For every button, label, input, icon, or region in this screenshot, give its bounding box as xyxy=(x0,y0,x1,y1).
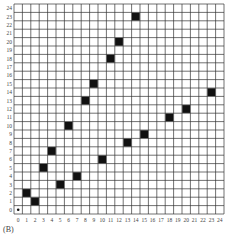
y-tick-label: 19 xyxy=(7,47,13,53)
y-tick-label: 18 xyxy=(7,56,13,62)
y-tick-label: 3 xyxy=(9,182,12,188)
y-tick-label: 20 xyxy=(7,39,13,45)
x-tick-label: 7 xyxy=(76,217,79,223)
y-tick-label: 11 xyxy=(7,114,13,120)
data-point-square xyxy=(56,181,64,189)
y-tick-label: 17 xyxy=(7,64,13,70)
x-tick-label: 10 xyxy=(99,217,105,223)
x-tick-label: 9 xyxy=(92,217,95,223)
x-tick-label: 15 xyxy=(141,217,147,223)
x-tick-label: 12 xyxy=(116,217,122,223)
y-tick-label: 16 xyxy=(7,72,13,78)
data-markers xyxy=(17,13,215,211)
y-tick-label: 24 xyxy=(7,5,13,11)
data-point-square xyxy=(140,130,148,138)
x-tick-label: 3 xyxy=(42,217,45,223)
x-tick-label: 14 xyxy=(133,217,139,223)
y-tick-label: 0 xyxy=(9,207,12,213)
x-tick-label: 21 xyxy=(192,217,198,223)
x-tick-label: 0 xyxy=(17,217,20,223)
x-tick-label: 20 xyxy=(183,217,189,223)
x-tick-label: 16 xyxy=(150,217,156,223)
x-tick-label: 23 xyxy=(209,217,215,223)
y-tick-label: 12 xyxy=(7,106,13,112)
data-point-square xyxy=(23,189,31,197)
x-tick-label: 18 xyxy=(167,217,173,223)
y-tick-label: 1 xyxy=(9,198,12,204)
x-tick-label: 17 xyxy=(158,217,164,223)
data-point-square xyxy=(98,156,106,164)
data-point-square xyxy=(182,105,190,113)
data-point-square xyxy=(132,13,140,21)
y-tick-label: 23 xyxy=(7,14,13,20)
data-point-square xyxy=(124,139,132,147)
y-tick-label: 2 xyxy=(9,190,12,196)
x-axis-ticks: 0123456789101112131415161718192021222324 xyxy=(17,217,223,223)
x-tick-label: 2 xyxy=(34,217,37,223)
y-tick-label: 9 xyxy=(9,131,12,137)
lattice-chart: 0123456789101112131415161718192021222324… xyxy=(0,0,228,235)
y-tick-label: 22 xyxy=(7,22,13,28)
x-tick-label: 1 xyxy=(25,217,28,223)
grid-lines xyxy=(14,4,224,214)
data-point-square xyxy=(31,198,39,206)
y-tick-label: 13 xyxy=(7,98,13,104)
data-point-square xyxy=(48,147,56,155)
x-tick-label: 6 xyxy=(67,217,70,223)
x-tick-label: 8 xyxy=(84,217,87,223)
data-point-square xyxy=(208,88,216,96)
y-tick-label: 14 xyxy=(7,89,13,95)
x-tick-label: 13 xyxy=(125,217,131,223)
x-tick-label: 11 xyxy=(108,217,114,223)
y-tick-label: 8 xyxy=(9,140,12,146)
origin-dot xyxy=(17,209,20,212)
y-tick-label: 7 xyxy=(9,148,12,154)
y-tick-label: 4 xyxy=(9,173,12,179)
x-tick-label: 5 xyxy=(59,217,62,223)
y-axis-ticks: 0123456789101112131415161718192021222324 xyxy=(7,5,13,213)
y-tick-label: 5 xyxy=(9,165,12,171)
data-point-square xyxy=(90,80,98,88)
data-point-square xyxy=(73,172,81,180)
data-point-square xyxy=(107,55,115,63)
data-point-square xyxy=(40,164,48,172)
x-tick-label: 24 xyxy=(217,217,223,223)
panel-label: (B) xyxy=(3,225,14,234)
y-tick-label: 15 xyxy=(7,81,13,87)
x-tick-label: 19 xyxy=(175,217,181,223)
data-point-square xyxy=(115,38,123,46)
x-tick-label: 4 xyxy=(50,217,53,223)
data-point-square xyxy=(166,114,174,122)
data-point-square xyxy=(82,97,90,105)
data-point-square xyxy=(65,122,73,130)
y-tick-label: 21 xyxy=(7,30,13,36)
x-tick-label: 22 xyxy=(200,217,206,223)
y-tick-label: 10 xyxy=(7,123,13,129)
y-tick-label: 6 xyxy=(9,156,12,162)
